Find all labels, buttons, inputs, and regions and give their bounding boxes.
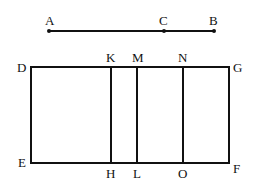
- geometry-diagram: A C B D G E F K M N H L O: [0, 0, 256, 191]
- label-m: M: [132, 50, 144, 65]
- point-b: [212, 29, 216, 33]
- label-e: E: [18, 155, 26, 170]
- label-a: A: [45, 13, 55, 28]
- label-b: B: [209, 13, 218, 28]
- point-a: [47, 29, 51, 33]
- label-k: K: [106, 50, 116, 65]
- point-c: [162, 29, 166, 33]
- label-h: H: [106, 166, 115, 181]
- label-n: N: [178, 50, 188, 65]
- label-l: L: [133, 166, 141, 181]
- label-f: F: [233, 161, 240, 176]
- label-o: O: [178, 166, 187, 181]
- rectangle-defg: [31, 67, 229, 163]
- label-d: D: [17, 60, 26, 75]
- label-c: C: [159, 13, 168, 28]
- label-g: G: [233, 60, 242, 75]
